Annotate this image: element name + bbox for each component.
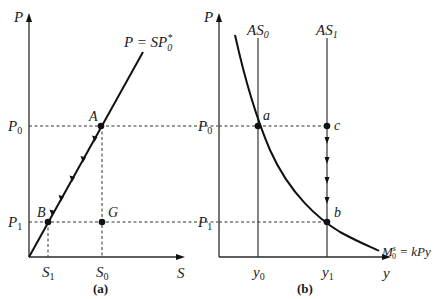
panel-a-point-A <box>98 123 105 130</box>
panel-a-s0-label: S0 <box>96 264 109 282</box>
panel-a-point-A-label: A <box>88 109 98 124</box>
panel-a-point-G <box>99 219 106 226</box>
panel-b-curve-label: Ms0 = kPy <box>381 244 431 261</box>
panel-b-x-axis-label: y <box>381 265 390 281</box>
panel-b-point-c-label: c <box>334 118 341 133</box>
panel-b-y0-label: y0 <box>251 264 265 282</box>
panel-b-y-axis-label: P <box>203 9 213 25</box>
panel-b-p0-label: P0 <box>197 118 212 136</box>
panel-a-x-axis-label: S <box>177 265 185 281</box>
panel-b-y-axis-arrow-icon <box>216 13 222 22</box>
panel-b-caption: (b) <box>297 281 313 296</box>
diagram-figure: P S P = SP*0 A B G P0 P <box>0 0 442 299</box>
panel-a-supply-line <box>29 52 143 257</box>
arrow-down-icon <box>325 157 330 164</box>
panel-a-p0-label: P0 <box>7 118 22 136</box>
panel-a-y-axis-label: P <box>13 9 23 25</box>
panel-a-line-label: P = SP*0 <box>123 32 172 53</box>
panel-b-money-curve <box>235 35 379 251</box>
panel-a-p1-label: P1 <box>7 214 22 232</box>
panel-b: P y AS0 AS1 a c b P0 P1 y0 <box>197 9 431 296</box>
panel-b-point-b <box>324 219 331 226</box>
panel-a-point-G-label: G <box>108 205 118 220</box>
panel-a-caption: (a) <box>93 281 108 296</box>
panel-a-s1-label: S1 <box>42 264 55 282</box>
panel-b-point-a-label: a <box>263 108 270 123</box>
arrow-down-icon <box>325 137 330 144</box>
panel-a-y-axis-arrow-icon <box>26 13 32 22</box>
panel-a: P S P = SP*0 A B G P0 P <box>7 9 218 296</box>
panel-b-y1-label: y1 <box>320 264 334 282</box>
panel-a-point-B-label: B <box>37 205 46 220</box>
panel-b-point-b-label: b <box>334 205 341 220</box>
panel-a-point-B <box>45 219 52 226</box>
arrow-down-icon <box>325 197 330 204</box>
panel-a-x-axis-arrow-icon <box>176 254 185 260</box>
panel-b-point-c <box>324 123 331 130</box>
arrow-down-icon <box>325 177 330 184</box>
panel-b-as1-label: AS1 <box>315 22 338 40</box>
panel-b-p1-label: P1 <box>197 214 212 232</box>
panel-b-as0-label: AS0 <box>246 22 269 40</box>
panel-b-point-a <box>255 123 262 130</box>
